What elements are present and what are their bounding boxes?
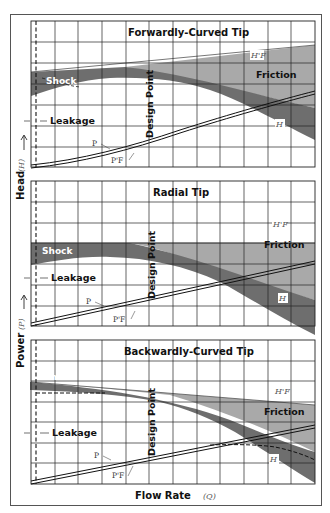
p-prime-f-label: P'F — [113, 315, 125, 324]
power-axis-symbol: (P) — [17, 318, 26, 330]
x-axis: Flow Rate (Q) — [135, 490, 216, 501]
design-point-label: Design Point — [144, 69, 155, 138]
h-label: H — [278, 294, 287, 303]
up-arrow-icon — [21, 135, 27, 150]
friction-label: Friction — [256, 69, 297, 80]
panel-forwardly-curved: Forwardly-Curved Tip Shock Friction Leak… — [24, 21, 315, 168]
shock-label: Shock — [44, 372, 75, 382]
power-axis-label: Power — [15, 333, 26, 368]
p-label: P — [86, 297, 91, 306]
leakage-label: Leakage — [50, 115, 95, 126]
h-label: H — [269, 455, 278, 464]
design-point-label: Design Point — [146, 387, 157, 456]
fan-characteristics-figure: Forwardly-Curved Tip Shock Friction Leak… — [0, 0, 330, 513]
friction-label: Friction — [264, 239, 305, 250]
panel-title: Backwardly-Curved Tip — [124, 346, 254, 357]
p-label: P — [94, 451, 99, 460]
design-point-label: Design Point — [146, 230, 157, 299]
panel-backwardly-curved: Backwardly-Curved Tip Shock Friction Lea… — [24, 340, 315, 484]
h-prime-f-label: H'F — [250, 51, 266, 60]
head-axis-symbol: (H) — [17, 159, 26, 172]
p-prime-f-label: P'F — [112, 471, 124, 480]
h-label: H — [275, 120, 284, 129]
x-axis-symbol: (Q) — [203, 492, 216, 501]
head-axis-label: Head — [15, 171, 26, 200]
panel-radial: Radial Tip Shock Friction Leakage Design… — [24, 181, 315, 335]
p-label: P — [92, 139, 97, 148]
h-prime-f-label: H'F — [272, 220, 288, 229]
y-axis-head: Head (H) — [15, 135, 27, 200]
p-prime-f-label: P'F — [111, 156, 123, 165]
leakage-label: Leakage — [52, 427, 97, 438]
y-axis-power: Power (P) — [15, 295, 27, 368]
shock-label: Shock — [42, 246, 73, 256]
x-axis-label: Flow Rate — [135, 490, 191, 501]
up-arrow-icon — [21, 295, 27, 309]
panel-title: Forwardly-Curved Tip — [128, 27, 249, 38]
panel-title: Radial Tip — [153, 187, 209, 198]
h-prime-f-label: H'F — [274, 387, 290, 396]
friction-label: Friction — [264, 406, 305, 417]
leakage-label: Leakage — [51, 272, 96, 283]
shock-label: Shock — [46, 76, 77, 86]
